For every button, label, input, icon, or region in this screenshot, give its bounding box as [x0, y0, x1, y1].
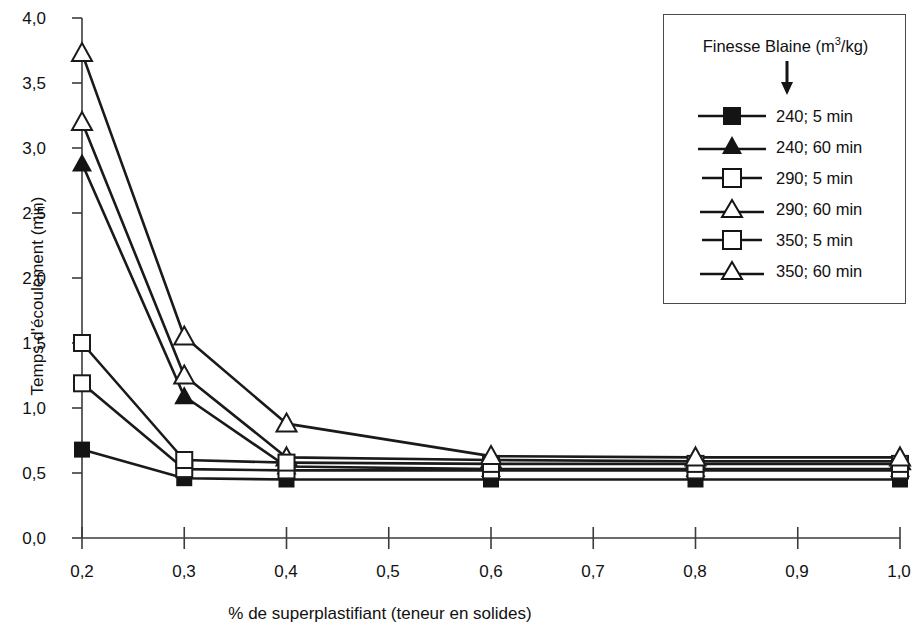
x-tick-label: 0,6 — [461, 563, 521, 580]
legend-label: 350; 5 min — [776, 231, 853, 250]
legend-label: 290; 60 min — [776, 200, 862, 219]
legend-marker-open-triangle — [696, 196, 768, 222]
y-tick-label: 0,0 — [0, 530, 46, 547]
x-axis-title: % de superplastifiant (teneur en solides… — [0, 604, 760, 624]
x-tick-label: 0,2 — [52, 563, 112, 580]
legend-title-main: Finesse Blaine (m — [703, 37, 835, 55]
x-tick-label: 0,4 — [256, 563, 316, 580]
legend-entry[interactable]: 350; 5 min — [664, 227, 907, 253]
legend-marker-filled-triangle — [696, 134, 768, 160]
legend-entry[interactable]: 290; 5 min — [664, 165, 907, 191]
legend-entry[interactable]: 240; 60 min — [664, 134, 907, 160]
x-tick-label: 0,9 — [767, 563, 827, 580]
x-tick-label: 0,3 — [154, 563, 214, 580]
legend-marker-open-triangle — [696, 258, 768, 284]
legend-marker-filled-square — [696, 103, 768, 129]
y-tick-label: 0,5 — [0, 465, 46, 482]
down-arrow-icon — [780, 61, 794, 95]
x-tick-label: 1,0 — [869, 563, 913, 580]
legend-entry[interactable]: 350; 60 min — [664, 258, 907, 284]
y-axis-title: Temps d'écoulement (min) — [28, 166, 48, 426]
y-tick-label: 3,0 — [0, 140, 46, 157]
legend-entry[interactable]: 290; 60 min — [664, 196, 907, 222]
x-tick-label: 0,7 — [563, 563, 623, 580]
y-tick-label: 3,5 — [0, 75, 46, 92]
legend-title-tail: /kg) — [841, 37, 869, 55]
chart-figure: 4,0 3,5 3,0 2,5 2,0 1,5 1,0 0,5 0,0 0,2 … — [0, 0, 913, 632]
legend-label: 350; 60 min — [776, 262, 862, 281]
legend-label: 240; 60 min — [776, 138, 862, 157]
legend-label: 290; 5 min — [776, 169, 853, 188]
y-tick-label: 4,0 — [0, 10, 46, 27]
legend-marker-open-square — [696, 165, 768, 191]
legend-marker-open-square — [696, 227, 768, 253]
legend-entry[interactable]: 240; 5 min — [664, 103, 907, 129]
chart-legend: Finesse Blaine (m3/kg) 240; 5 min 240; 6… — [663, 14, 906, 304]
x-tick-label: 0,5 — [358, 563, 418, 580]
legend-title: Finesse Blaine (m3/kg) — [664, 35, 907, 56]
x-tick-label: 0,8 — [665, 563, 725, 580]
legend-label: 240; 5 min — [776, 107, 853, 126]
